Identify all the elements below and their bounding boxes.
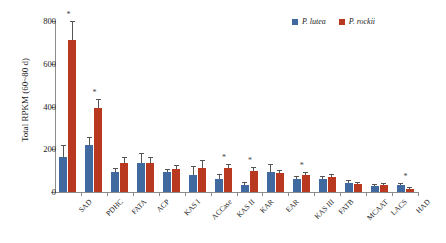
- bar-group: *: [292, 21, 311, 192]
- bar-p--lutea: [345, 183, 353, 192]
- error-bar: [167, 170, 168, 172]
- x-label-kas-iii: KAS III: [313, 198, 336, 221]
- error-bar-cap: [372, 184, 377, 185]
- error-bar: [228, 165, 229, 168]
- bar-group: *: [214, 21, 233, 192]
- error-bar-cap: [268, 164, 273, 165]
- error-bar: [357, 183, 358, 184]
- bar-p--rockii: [406, 189, 414, 192]
- error-bar-cap: [191, 166, 196, 167]
- y-tick-label: 0: [16, 188, 56, 197]
- x-label-fata: FATA: [130, 198, 148, 216]
- error-bar-cap: [139, 153, 144, 154]
- bar-p--rockii: [302, 175, 310, 192]
- error-bar: [270, 165, 271, 172]
- significance-marker: *: [248, 157, 252, 165]
- bar-p--rockii: [68, 40, 76, 192]
- error-bar-cap: [407, 187, 412, 188]
- bar-group: [344, 21, 363, 192]
- error-bar: [374, 185, 375, 186]
- error-bar-cap: [226, 164, 231, 165]
- bar-p--lutea: [371, 186, 379, 192]
- x-label-accase: ACCase: [210, 198, 233, 221]
- error-bar: [253, 168, 254, 171]
- bar-group: *: [58, 21, 77, 192]
- error-bar: [219, 175, 220, 179]
- error-bar-cap: [165, 169, 170, 170]
- significance-marker: *: [92, 89, 96, 97]
- x-label-sad: SAD: [77, 198, 93, 214]
- x-label-mcaat: MCAAT: [366, 198, 390, 222]
- error-bar: [89, 138, 90, 144]
- error-bar: [296, 177, 297, 179]
- significance-marker: *: [222, 154, 226, 162]
- bar-group: [266, 21, 285, 192]
- error-bar-cap: [174, 165, 179, 166]
- y-tick-label: 800: [16, 17, 56, 26]
- error-bar-cap: [70, 21, 75, 22]
- error-bar-cap: [251, 167, 256, 168]
- bar-p--rockii: [380, 185, 388, 192]
- significance-marker: *: [404, 173, 408, 181]
- x-label-kas-ii: KAS II: [235, 198, 256, 219]
- error-bar: [322, 177, 323, 179]
- bar-group: [162, 21, 181, 192]
- error-bar: [409, 188, 410, 189]
- bar-group: *: [84, 21, 103, 192]
- error-bar: [400, 184, 401, 185]
- bar-p--rockii: [172, 169, 180, 193]
- x-label-kar: KAR: [259, 198, 276, 215]
- error-bar-cap: [61, 145, 66, 146]
- bar-group: [110, 21, 129, 192]
- bar-p--rockii: [224, 168, 232, 192]
- error-bar: [141, 154, 142, 164]
- error-bar: [279, 171, 280, 174]
- error-bar-cap: [217, 174, 222, 175]
- bar-p--rockii: [250, 171, 258, 192]
- y-tick-label: 400: [16, 102, 56, 111]
- bar-p--lutea: [59, 157, 67, 192]
- bar-p--lutea: [319, 179, 327, 192]
- y-tick-label: 200: [16, 145, 56, 154]
- bar-p--lutea: [189, 175, 197, 192]
- error-bar-cap: [329, 174, 334, 175]
- bar-group: [188, 21, 207, 192]
- plot-area: 0200400600800 ******: [55, 21, 418, 192]
- error-bar-cap: [200, 160, 205, 161]
- bar-p--lutea: [111, 172, 119, 192]
- y-axis-title: Total RPKM (60~80 d): [20, 15, 30, 185]
- error-bar-cap: [355, 182, 360, 183]
- error-bar: [202, 161, 203, 168]
- bar-group: [318, 21, 337, 192]
- x-tick: [418, 192, 419, 196]
- x-label-fatb: FATB: [337, 198, 355, 216]
- error-bar: [383, 184, 384, 185]
- x-label-acp: ACP: [155, 198, 171, 214]
- significance-marker: *: [300, 162, 304, 170]
- bar-p--rockii: [328, 177, 336, 192]
- error-bar: [115, 169, 116, 172]
- error-bar-cap: [87, 137, 92, 138]
- bar-p--lutea: [241, 185, 249, 192]
- bar-p--rockii: [354, 184, 362, 192]
- error-bar: [176, 166, 177, 169]
- error-bar-cap: [381, 183, 386, 184]
- error-bar: [193, 167, 194, 175]
- x-label-lacs: LACS: [390, 198, 409, 217]
- bar-group: *: [396, 21, 415, 192]
- x-label-ear: EAR: [285, 198, 301, 214]
- y-tick-label: 600: [16, 60, 56, 69]
- error-bar-cap: [398, 183, 403, 184]
- error-bar: [348, 181, 349, 183]
- bar-p--lutea: [215, 179, 223, 192]
- error-bar: [331, 175, 332, 177]
- bar-group: [370, 21, 389, 192]
- bar-p--lutea: [163, 172, 171, 192]
- error-bar: [150, 158, 151, 163]
- error-bar-cap: [346, 180, 351, 181]
- error-bar: [72, 22, 73, 40]
- bar-p--rockii: [120, 163, 128, 192]
- error-bar-cap: [96, 99, 101, 100]
- error-bar-cap: [320, 176, 325, 177]
- error-bar-cap: [242, 182, 247, 183]
